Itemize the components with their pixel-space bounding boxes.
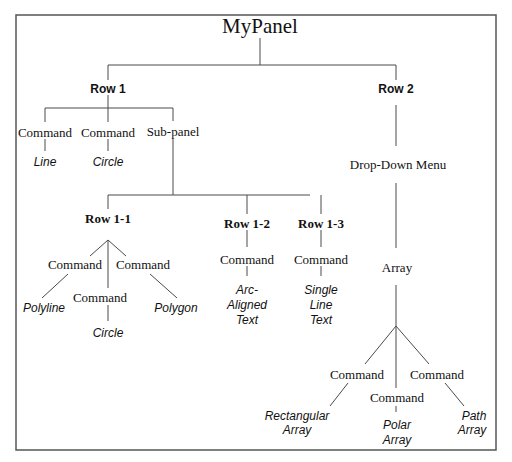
connector-row1-1-left [90,240,108,256]
panel-hierarchy-diagram: MyPanel Row 1 Row 2 Command Command Sub-… [0,0,512,462]
leaf-arc-aligned-text-line3: Text [236,313,259,327]
command-node: Command [116,257,171,272]
leaf-polygon: Polygon [154,301,198,315]
leaf-arc-aligned-text-line1: Arc- [235,283,258,297]
diagram-title: MyPanel [222,14,298,38]
command-node: Command [81,125,136,140]
subpanel-node: Sub-panel [147,124,200,139]
row2-label: Row 2 [378,82,414,96]
leaf-single-line-text-line3: Text [310,313,333,327]
leaf-circle: Circle [93,155,124,169]
array-node: Array [382,260,413,275]
command-node: Command [370,390,425,405]
leaf-polar-array-line2: Array [382,433,413,447]
command-node: Command [330,367,385,382]
command-node: Command [410,367,465,382]
leaf-line: Line [34,155,57,169]
leaf-polar-array-line1: Polar [383,418,412,432]
command-node: Command [294,252,349,267]
leaf-rectangular-array-line2: Array [282,423,313,437]
diagram-frame [16,15,496,450]
leaf-path-array-line2: Array [457,423,488,437]
connector-row1-1-right [108,240,126,256]
row1-label: Row 1 [90,82,126,96]
leaf-path-array-line1: Path [462,409,487,423]
connector-array-left [365,326,396,364]
connector-polygon [150,274,177,298]
row1-1-label: Row 1-1 [85,211,131,226]
dropdown-menu-node: Drop-Down Menu [350,157,447,172]
connector-path-array [445,383,464,406]
row1-2-label: Row 1-2 [224,216,270,231]
command-node: Command [48,257,103,272]
command-node: Command [18,125,73,140]
connector-polyline [42,274,68,298]
row1-3-label: Row 1-3 [298,216,344,231]
leaf-single-line-text-line2: Line [310,298,333,312]
leaf-rectangular-array-line1: Rectangular [265,409,331,423]
connector-rect-array [330,383,348,406]
leaf-circle: Circle [93,326,124,340]
leaf-arc-aligned-text-line2: Aligned [226,298,267,312]
command-node: Command [73,290,128,305]
leaf-polyline: Polyline [23,301,65,315]
command-node: Command [220,252,275,267]
connector-array-right [396,326,429,364]
leaf-single-line-text-line1: Single [304,283,338,297]
